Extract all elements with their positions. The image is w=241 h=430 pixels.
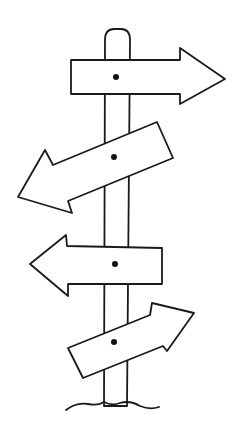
nail-icon [111, 154, 117, 160]
sign-arrow-left-tilted [18, 122, 173, 213]
nail-icon [112, 261, 118, 267]
sign-arrow-right-top [71, 48, 225, 104]
nail-icon [111, 339, 117, 345]
nail-icon [113, 74, 119, 80]
sign-arrow-right-tilted [68, 303, 194, 378]
signpost-illustration: Hand-drawn signpost with four arrows [0, 0, 241, 430]
sign-arrow-left [30, 235, 162, 296]
signpost-drawing [0, 0, 241, 430]
